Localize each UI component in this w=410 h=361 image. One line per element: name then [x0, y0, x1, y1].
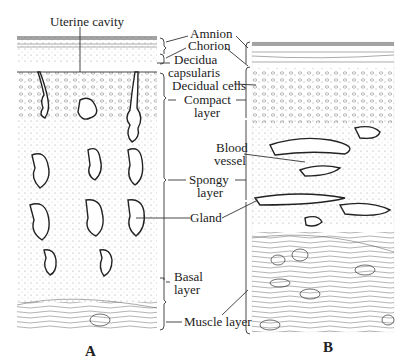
- label-vessel: vessel: [214, 153, 246, 168]
- label-decidual-cells: Decidual cells: [172, 78, 246, 93]
- panel-label-b: B: [323, 339, 333, 355]
- label-muscle-layer: Muscle layer: [184, 314, 252, 329]
- panel-a: A: [17, 37, 157, 359]
- endometrium-diagram: A B: [0, 0, 410, 361]
- panel-b: B: [252, 42, 394, 355]
- label-spongy-layer: layer: [197, 185, 224, 200]
- label-compact-layer: layer: [194, 105, 221, 120]
- panel-label-a: A: [85, 343, 96, 359]
- label-chorion: Chorion: [188, 38, 231, 53]
- label-basal-layer: layer: [174, 282, 201, 297]
- label-uterine-cavity: Uterine cavity: [50, 14, 124, 29]
- label-gland: Gland: [190, 210, 222, 225]
